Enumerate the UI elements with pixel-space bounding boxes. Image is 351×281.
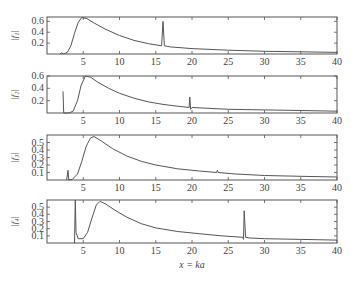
panel-1: 5101520253035400.20.40.6|f₁| bbox=[9, 15, 342, 67]
x-tick-label: 25 bbox=[223, 56, 233, 67]
x-axis-label: x = ka bbox=[178, 259, 205, 270]
x-tick-label: 25 bbox=[223, 182, 233, 193]
data-curve bbox=[75, 200, 338, 243]
panel-3: 5101520253035400.10.20.30.40.5|f₃| bbox=[9, 135, 342, 193]
x-tick-label: 40 bbox=[332, 56, 342, 67]
x-tick-label: 15 bbox=[151, 245, 161, 256]
y-tick-label: 0.2 bbox=[32, 37, 45, 48]
x-tick-label: 30 bbox=[260, 245, 270, 256]
x-tick-label: 20 bbox=[187, 245, 197, 256]
y-tick-label: 0.6 bbox=[32, 15, 45, 26]
x-tick-label: 30 bbox=[260, 56, 270, 67]
y-axis-label: |f₃| bbox=[9, 152, 19, 163]
x-tick-label: 25 bbox=[223, 245, 233, 256]
y-tick-label: 0.2 bbox=[32, 95, 45, 106]
y-tick-label: 0.5 bbox=[32, 201, 45, 212]
x-tick-label: 30 bbox=[260, 115, 270, 126]
figure: 5101520253035400.20.40.6|f₁|510152025303… bbox=[0, 0, 351, 281]
x-tick-label: 35 bbox=[296, 182, 306, 193]
x-tick-label: 40 bbox=[332, 115, 342, 126]
y-tick-label: 0.6 bbox=[32, 70, 45, 81]
x-tick-label: 5 bbox=[81, 115, 86, 126]
y-tick-label: 0.5 bbox=[32, 137, 45, 148]
x-tick-label: 35 bbox=[296, 115, 306, 126]
y-axis-label: |f₄| bbox=[9, 216, 19, 227]
x-tick-label: 15 bbox=[151, 56, 161, 67]
x-tick-label: 10 bbox=[115, 115, 125, 126]
x-tick-label: 10 bbox=[115, 182, 125, 193]
panel-4: 5101520253035400.10.20.30.40.5|f₄| bbox=[9, 200, 342, 256]
data-curve bbox=[67, 137, 337, 181]
x-tick-label: 35 bbox=[296, 245, 306, 256]
x-tick-label: 15 bbox=[151, 182, 161, 193]
x-tick-label: 25 bbox=[223, 115, 233, 126]
panels: 5101520253035400.20.40.6|f₁|510152025303… bbox=[9, 15, 342, 256]
x-tick-label: 10 bbox=[115, 56, 125, 67]
panel-2: 5101520253035400.20.40.6|f₂| bbox=[9, 70, 342, 126]
x-tick-label: 30 bbox=[260, 182, 270, 193]
x-tick-label: 40 bbox=[332, 182, 342, 193]
x-tick-label: 10 bbox=[115, 245, 125, 256]
x-tick-label: 5 bbox=[81, 182, 86, 193]
x-tick-label: 20 bbox=[187, 182, 197, 193]
x-tick-label: 20 bbox=[187, 115, 197, 126]
y-axis-label: |f₁| bbox=[9, 30, 19, 41]
plot-frame bbox=[47, 135, 337, 180]
x-tick-label: 20 bbox=[187, 56, 197, 67]
x-tick-label: 35 bbox=[296, 56, 306, 67]
y-tick-label: 0.4 bbox=[32, 82, 45, 93]
data-curve bbox=[63, 76, 337, 113]
data-curve bbox=[60, 18, 337, 55]
x-tick-label: 40 bbox=[332, 245, 342, 256]
y-tick-label: 0.4 bbox=[32, 26, 45, 37]
y-axis-label: |f₂| bbox=[9, 89, 19, 100]
x-tick-label: 5 bbox=[81, 56, 86, 67]
x-tick-label: 5 bbox=[81, 245, 86, 256]
x-tick-label: 15 bbox=[151, 115, 161, 126]
